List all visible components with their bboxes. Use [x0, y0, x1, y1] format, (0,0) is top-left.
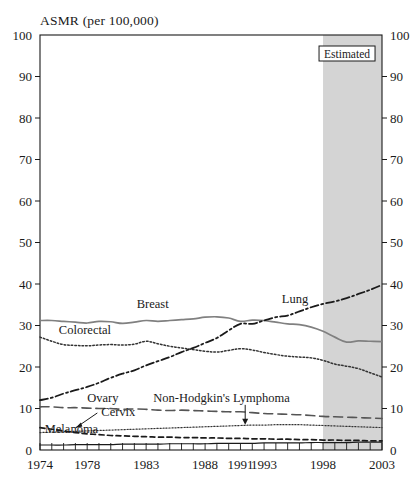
series-label-melanoma: Melanoma — [45, 422, 99, 436]
y-tick-label-right: 80 — [390, 111, 403, 126]
asmr-line-chart: 0102030405060708090100 01020304050607080… — [0, 0, 413, 491]
y-tick-label-left: 30 — [19, 318, 32, 333]
series-label-colorectal: Colorectal — [59, 323, 112, 337]
estimated-shading — [323, 35, 382, 450]
estimated-label-box: Estimated — [319, 46, 375, 61]
y-tick-label-right: 0 — [390, 443, 397, 458]
series-label-lung: Lung — [282, 292, 309, 306]
x-tick-label: 2003 — [369, 457, 395, 472]
x-tick-label: 1983 — [133, 457, 159, 472]
chart-title: ASMR (per 100,000) — [40, 13, 159, 29]
y-tick-label-left: 90 — [19, 69, 32, 84]
x-tick-label: 1998 — [310, 457, 336, 472]
series-label-cervix: Cervix — [101, 405, 136, 419]
y-tick-label-left: 70 — [19, 152, 32, 167]
y-tick-label-left: 0 — [26, 443, 33, 458]
y-tick-label-left: 10 — [19, 401, 32, 416]
series-label-non-hodgkin-s-lymphoma: Non-Hodgkin's Lymphoma — [153, 391, 290, 405]
series-label-ovary: Ovary — [87, 391, 119, 405]
x-tick-label: 1991 — [227, 457, 253, 472]
x-tick-label: 1974 — [27, 457, 54, 472]
y-tick-label-left: 80 — [19, 111, 32, 126]
series-label-breast: Breast — [137, 297, 169, 311]
x-tick-label: 1978 — [74, 457, 100, 472]
series-annotations: BreastColorectalLungOvaryNon-Hodgkin's L… — [45, 292, 309, 436]
estimated-label-text: Estimated — [324, 48, 370, 60]
y-tick-label-right: 70 — [390, 152, 403, 167]
y-tick-label-right: 60 — [390, 194, 403, 209]
annotation-arrow-head — [242, 419, 248, 425]
y-tick-label-right: 100 — [390, 28, 410, 43]
y-tick-label-left: 20 — [19, 360, 32, 375]
estimated-band — [323, 35, 382, 450]
y-axis-left-ticks: 0102030405060708090100 — [13, 28, 41, 458]
x-tick-label: 1993 — [251, 457, 277, 472]
y-tick-label-right: 30 — [390, 318, 403, 333]
y-tick-label-left: 50 — [19, 235, 32, 250]
y-tick-label-right: 40 — [390, 277, 403, 292]
chart-figure: ASMR (per 100,000) 010203040506070809010… — [0, 0, 413, 491]
y-tick-label-left: 100 — [13, 28, 33, 43]
y-axis-right-ticks: 0102030405060708090100 — [382, 28, 410, 458]
x-tick-label: 1988 — [192, 457, 218, 472]
y-tick-label-right: 20 — [390, 360, 403, 375]
y-tick-label-left: 40 — [19, 277, 32, 292]
y-tick-label-right: 10 — [390, 401, 403, 416]
y-tick-label-right: 90 — [390, 69, 403, 84]
y-tick-label-left: 60 — [19, 194, 32, 209]
y-tick-label-right: 50 — [390, 235, 403, 250]
